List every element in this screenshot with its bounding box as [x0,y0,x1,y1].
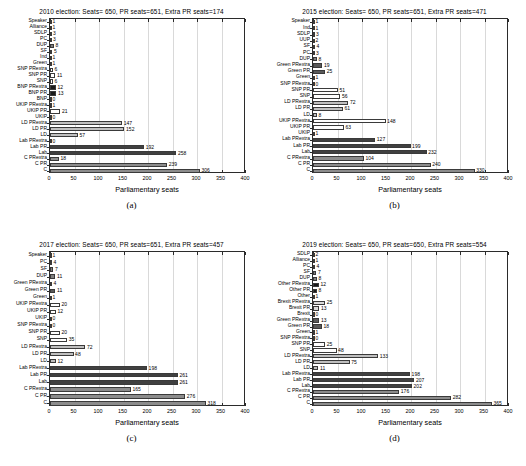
y-axis-label: C PRextra [287,388,310,393]
y-axis-label: SNP PR [291,341,310,346]
x-axis-tick-label: 0 [48,408,51,414]
y-axis-label: Lab PRextra [19,365,47,370]
gridline [485,252,486,405]
bar [313,113,317,117]
y-axis-tick [47,312,50,313]
plot-area: 3182761652612611981248723520001220111411… [49,251,245,406]
bar [313,306,319,310]
bar [50,109,60,113]
bar-value-label: 3 [53,31,56,36]
y-axis-tick [310,28,313,29]
x-axis-tick-label: 0 [48,175,51,181]
bar [50,157,59,161]
x-axis-title: Parliamentary seats [312,185,508,194]
bar [50,169,200,173]
y-axis-label: Green PR [288,68,310,73]
bar-value-label: 61 [344,106,350,111]
y-axis-tick [47,159,50,160]
bar [50,274,55,278]
y-axis-label: SNP PRextra [280,335,310,340]
bar [50,387,131,391]
bar [313,342,325,346]
y-axis-tick [310,267,313,268]
x-axis-tick-label: 300 [192,175,201,181]
bar [50,282,52,286]
bar [50,145,144,149]
panel-b: 2015 election: Seats= 650, PR seats=651,… [263,0,526,233]
bar-value-label: 3 [316,51,319,56]
y-axis-tick [310,261,313,262]
bar [313,318,319,322]
y-axis-label: SNP [300,347,310,352]
bar [50,85,56,89]
y-axis-tick [310,47,313,48]
y-axis-label: Other PR [289,287,310,292]
y-axis-label: LD PR [295,359,310,364]
bar [313,354,378,358]
bar-value-label: 240 [432,162,440,167]
plot-area: 3302401042321991271631488617256510125198… [312,18,508,173]
y-axis-tick [47,135,50,136]
y-axis-tick [310,309,313,310]
bar-value-label: 4 [317,264,320,269]
bar-value-label: 1 [52,55,55,60]
y-axis-tick [310,279,313,280]
y-axis-label: PC [40,259,47,264]
y-axis-tick [47,46,50,47]
bar-value-label: 1 [315,131,318,136]
bar [50,345,85,349]
y-axis-label: Other PRextra [278,281,310,286]
bar [313,324,322,328]
y-axis-label: Lab [302,149,310,154]
y-axis-label: Lab PRextra [19,138,47,143]
y-axis-label: Lab PRextra [282,136,310,141]
y-axis-label: C PR [298,161,310,166]
y-axis-label: Lab [39,150,47,155]
bar-value-label: 11 [320,366,325,371]
bar-value-label: 104 [366,156,374,161]
y-axis-tick [47,333,50,334]
y-axis-label: Green PR [25,287,47,292]
bar [50,79,53,83]
bar-value-label: 318 [207,401,215,406]
bar [313,156,364,160]
y-axis-tick [310,97,313,98]
y-axis-label: C PRextra [287,155,310,160]
x-axis-tick-top [99,252,100,255]
y-axis-tick [47,123,50,124]
bar [50,68,53,72]
x-axis-tick-label: 250 [167,175,176,181]
x-axis-tick-top [338,252,339,255]
bar-value-label: 48 [75,352,81,357]
y-axis-label: UKIP PRextra [16,102,47,107]
bar-value-label: 0 [52,115,55,120]
x-axis-tick-label: 100 [94,408,103,414]
y-axis-tick [47,263,50,264]
plot-area: 3062391825819205715214702110131261161158… [49,18,245,173]
y-axis-tick [310,134,313,135]
panel-caption: (c) [0,433,263,443]
y-axis-label: DUP [36,42,47,47]
x-axis-tick-label: 400 [504,408,513,414]
bar-value-label: 4 [54,281,57,286]
bar [313,384,412,388]
bar [313,289,317,293]
y-axis-tick [310,121,313,122]
y-axis-label: C PR [35,393,47,398]
y-axis-tick [47,105,50,106]
gridline [485,19,486,172]
y-axis-tick [47,171,50,172]
y-axis-label: C PR [35,161,47,166]
y-axis-tick [47,28,50,29]
y-axis-tick [47,298,50,299]
bar-value-label: 75 [351,360,357,365]
y-axis-label: SNP PR [28,72,47,77]
bar-value-label: 0 [52,316,55,321]
bar-value-label: 198 [149,366,157,371]
bar [313,45,315,49]
bar-value-label: 11 [57,73,62,78]
bar-value-label: 2 [316,252,319,257]
y-axis-tick [310,291,313,292]
bar-value-label: 11 [57,288,62,293]
y-axis-label: SNP [37,78,47,83]
